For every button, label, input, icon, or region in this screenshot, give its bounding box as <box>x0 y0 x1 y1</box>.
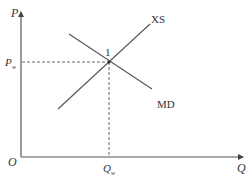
x-axis-label: Q <box>237 161 246 175</box>
origin-label: O <box>8 155 17 169</box>
md-label: MD <box>157 98 175 110</box>
y-axis-label: P <box>10 6 19 20</box>
equilibrium-point-label: 1 <box>105 46 111 58</box>
quantity-label: Q <box>103 162 111 174</box>
quantity-subscript: w <box>111 170 115 176</box>
price-subscript: w <box>12 64 16 70</box>
xs-label: XS <box>151 13 165 25</box>
equilibrium-point <box>107 60 110 63</box>
xs-curve <box>58 24 150 109</box>
quantity-label-group: Q w <box>103 162 115 176</box>
supply-demand-diagram: P Q O XS MD 1 P w Q w <box>0 0 252 181</box>
price-label-group: P w <box>4 56 16 70</box>
price-label: P <box>4 56 12 68</box>
